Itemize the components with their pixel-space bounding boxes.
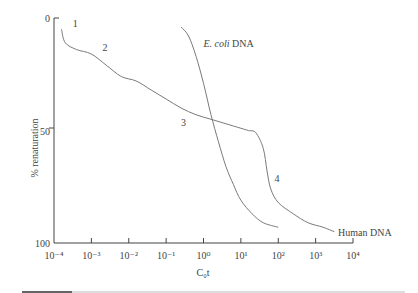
y-tick-label: 100 [35,238,50,249]
renaturation-chart: 10⁻⁴10⁻³10⁻²10⁻¹10⁰10¹10²10³10⁴ 050100 1… [0,0,418,293]
x-tick-label: 10⁻⁴ [45,250,64,261]
y-axis-label: % renaturation [29,118,40,177]
annotation-label: E. coli DNA [203,38,255,49]
annotation-label: 3 [181,117,186,128]
y-tick-label: 0 [45,13,50,24]
x-tick-label: 10⁴ [346,250,360,261]
annotation-label: Human DNA [338,227,392,238]
annotation-label: 1 [73,18,78,29]
x-tick-label: 10⁻² [120,250,138,261]
curves [61,27,334,232]
x-tick-label: 10⁰ [196,250,210,261]
x-ticks: 10⁻⁴10⁻³10⁻²10⁻¹10⁰10¹10²10³10⁴ [45,238,361,261]
annotation-label: 2 [103,42,108,53]
human-dnacurve [61,29,334,232]
annotation-label: 4 [275,173,280,184]
x-tick-label: 10⁻³ [82,250,100,261]
y-tick-label: 50 [40,126,50,137]
annotations: 1234E. coli DNAHuman DNA [73,18,393,238]
x-axis-label: C₀t [197,267,210,278]
x-tick-label: 10⁻¹ [157,250,175,261]
x-tick-label: 10³ [309,250,322,261]
e-coli-dnacurve [181,27,278,227]
x-tick-label: 10¹ [234,250,247,261]
axes [49,18,353,243]
x-tick-label: 10² [272,250,285,261]
